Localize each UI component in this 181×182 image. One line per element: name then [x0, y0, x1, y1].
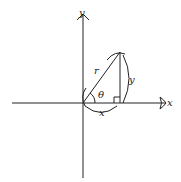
- opposite-label: y: [128, 74, 135, 85]
- r-brace-arc-top: [107, 53, 125, 60]
- right-angle-marker: [114, 97, 120, 103]
- y-axis-label: y: [78, 7, 85, 18]
- angle-theta-arc: [90, 93, 95, 103]
- x-axis-label: x: [167, 97, 173, 108]
- angle-label: θ: [98, 89, 104, 100]
- polar-coordinates-diagram: x y r y x θ: [0, 0, 181, 182]
- adjacent-label: x: [99, 107, 105, 118]
- hypotenuse-label: r: [94, 65, 100, 76]
